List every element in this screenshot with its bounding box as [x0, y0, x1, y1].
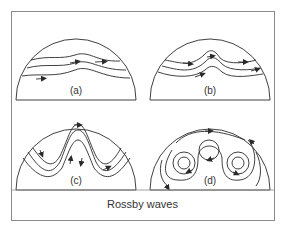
panel-d-label: (d) — [204, 175, 216, 186]
diagram-title: Rossby waves — [0, 198, 285, 210]
panel-c-label: (c) — [70, 175, 82, 186]
panel-b-label: (b) — [204, 85, 216, 96]
rossby-waves-diagram: (a) (b) (c) (d) — [0, 0, 285, 230]
panel-a-label: (a) — [70, 85, 82, 96]
